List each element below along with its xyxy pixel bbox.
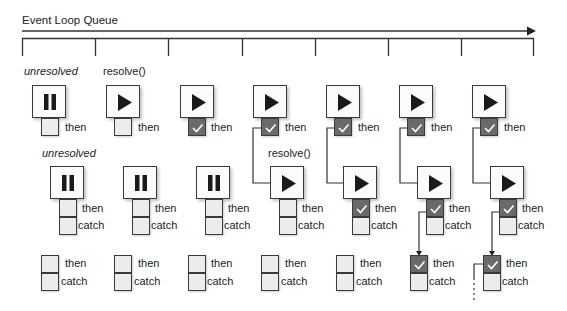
catch-label: catch <box>356 275 382 287</box>
catch-label: catch <box>281 275 307 287</box>
catch-label: catch <box>518 219 544 231</box>
promise-pending <box>196 166 230 199</box>
check-icon <box>189 119 207 137</box>
then-slot <box>279 199 297 217</box>
play-icon <box>418 167 452 200</box>
then-slot-checked <box>188 118 206 136</box>
then-slot-checked <box>407 118 425 136</box>
diagram-title: Event Loop Queue <box>22 14 118 26</box>
promise-resolved <box>326 85 360 118</box>
then-slot <box>336 255 354 273</box>
catch-slot <box>114 273 132 291</box>
play-icon <box>107 86 141 119</box>
catch-label: catch <box>134 275 160 287</box>
then-slot-checked <box>261 118 279 136</box>
then-label: then <box>302 202 323 214</box>
catch-label: catch <box>502 275 528 287</box>
then-label: then <box>358 121 379 133</box>
arrow-head-icon <box>527 27 536 36</box>
check-icon <box>262 119 280 137</box>
then-label: then <box>138 257 159 269</box>
play-icon <box>254 86 288 119</box>
then-label: then <box>138 121 159 133</box>
catch-slot <box>483 273 501 291</box>
pause-icon <box>33 86 67 119</box>
then-slot <box>132 199 150 217</box>
promise-resolved <box>270 166 304 199</box>
catch-slot <box>205 217 223 235</box>
then-slot-checked <box>410 255 428 273</box>
play-icon <box>327 86 361 119</box>
catch-slot <box>426 217 444 235</box>
check-icon <box>353 200 371 218</box>
then-label: then <box>522 202 543 214</box>
then-label: then <box>211 257 232 269</box>
play-icon <box>344 167 378 200</box>
catch-slot <box>336 273 354 291</box>
play-icon <box>181 86 215 119</box>
then-label: then <box>65 121 86 133</box>
pause-icon <box>197 167 231 200</box>
check-icon <box>408 119 426 137</box>
promise-resolved <box>343 166 377 199</box>
catch-label: catch <box>151 219 177 231</box>
then-slot-checked <box>352 199 370 217</box>
unresolved-label-1: unresolved <box>24 65 78 77</box>
then-label: then <box>431 121 452 133</box>
promise-pending <box>50 166 84 199</box>
check-icon <box>411 256 429 274</box>
catch-label: catch <box>371 219 397 231</box>
promise-resolved <box>490 166 524 199</box>
then-label: then <box>449 202 470 214</box>
then-slot-checked <box>480 118 498 136</box>
then-label: then <box>285 121 306 133</box>
promise-resolved <box>253 85 287 118</box>
pause-icon <box>124 167 158 200</box>
then-slot <box>114 255 132 273</box>
then-slot <box>41 118 59 136</box>
then-label: then <box>360 257 381 269</box>
then-slot-checked <box>334 118 352 136</box>
then-label: then <box>228 202 249 214</box>
check-icon <box>481 119 499 137</box>
catch-slot <box>261 273 279 291</box>
resolve-label-1: resolve() <box>103 65 146 77</box>
promise-pending <box>32 85 66 118</box>
promise-resolved <box>399 85 433 118</box>
check-icon <box>500 200 518 218</box>
then-label: then <box>285 257 306 269</box>
catch-label: catch <box>298 219 324 231</box>
then-label: then <box>65 257 86 269</box>
catch-slot <box>188 273 206 291</box>
catch-label: catch <box>224 219 250 231</box>
unresolved-label-2: unresolved <box>42 147 96 159</box>
check-icon <box>427 200 445 218</box>
resolve-label-2: resolve() <box>268 147 311 159</box>
check-icon <box>335 119 353 137</box>
check-icon <box>484 256 502 274</box>
then-label: then <box>433 257 454 269</box>
catch-label: catch <box>78 219 104 231</box>
play-icon <box>491 167 525 200</box>
promise-pending <box>123 166 157 199</box>
play-icon <box>271 167 305 200</box>
promise-resolved <box>472 85 506 118</box>
then-slot-checked <box>499 199 517 217</box>
then-slot <box>205 199 223 217</box>
then-slot <box>41 255 59 273</box>
play-icon <box>473 86 507 119</box>
promise-resolved <box>417 166 451 199</box>
catch-slot <box>410 273 428 291</box>
catch-slot <box>352 217 370 235</box>
then-label: then <box>82 202 103 214</box>
catch-slot <box>499 217 517 235</box>
then-label: then <box>504 121 525 133</box>
catch-label: catch <box>61 275 87 287</box>
promise-resolved <box>180 85 214 118</box>
then-label: then <box>375 202 396 214</box>
pause-icon <box>51 167 85 200</box>
catch-slot <box>59 217 77 235</box>
then-slot <box>261 255 279 273</box>
then-label: then <box>155 202 176 214</box>
then-slot <box>59 199 77 217</box>
